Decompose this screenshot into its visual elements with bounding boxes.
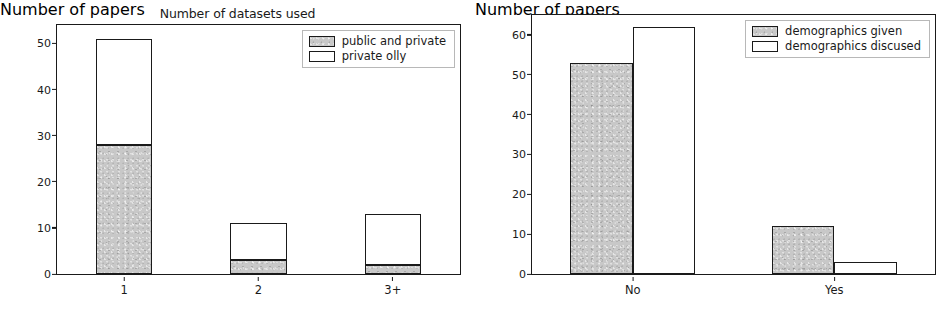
y-tick-mark	[527, 114, 531, 115]
y-axis-tick: 50	[506, 69, 526, 80]
legend-item: public and private	[309, 36, 446, 48]
legend-label: public and private	[342, 36, 446, 48]
chart-panel-right: Number of papers 0102030405060NoYes demo…	[475, 0, 950, 313]
legend-right: demographics given demographics discused	[745, 20, 930, 58]
y-axis-tick: 20	[31, 176, 51, 187]
x-axis-tick: Yes	[825, 285, 844, 297]
bar-segment	[365, 214, 421, 265]
y-tick-mark	[527, 273, 531, 274]
legend-swatch-public-and-private	[309, 36, 335, 47]
bar	[570, 63, 632, 274]
y-tick-mark	[52, 227, 56, 228]
legend-item: private olly	[309, 51, 446, 63]
x-tick-mark	[258, 277, 259, 281]
x-axis-tick: 3+	[384, 285, 401, 297]
y-axis-tick: 50	[31, 38, 51, 49]
y-axis-tick: 10	[506, 229, 526, 240]
y-tick-mark	[527, 194, 531, 195]
y-tick-mark	[52, 273, 56, 274]
y-tick-mark	[527, 74, 531, 75]
x-tick-mark	[124, 277, 125, 281]
legend-label: demographics given	[785, 26, 902, 38]
y-tick-mark	[527, 154, 531, 155]
x-tick-mark	[392, 277, 393, 281]
chart-title-left: Number of datasets used	[0, 6, 475, 21]
bar-segment	[230, 223, 286, 260]
stacked-bar	[96, 39, 152, 274]
legend-label: demographics discused	[785, 41, 921, 53]
legend-label: private olly	[342, 51, 407, 63]
y-axis-tick: 60	[506, 29, 526, 40]
x-tick-mark	[834, 277, 835, 281]
legend-item: demographics given	[752, 26, 921, 38]
legend-left: public and private private olly	[302, 30, 455, 68]
y-axis-tick: 30	[31, 130, 51, 141]
bar-segment	[96, 39, 152, 145]
chart-panel-left: Number of datasets used Number of papers…	[0, 0, 475, 313]
x-axis-tick: 1	[120, 285, 127, 297]
legend-swatch-demographics-given	[752, 26, 778, 37]
x-axis-tick: 2	[255, 285, 262, 297]
y-axis-tick: 40	[506, 109, 526, 120]
bar	[834, 262, 896, 274]
y-tick-mark	[52, 89, 56, 90]
bar	[772, 226, 834, 274]
stacked-bar	[365, 214, 421, 274]
y-axis-tick: 0	[31, 269, 51, 280]
x-tick-mark	[632, 277, 633, 281]
figure-container: Number of datasets used Number of papers…	[0, 0, 951, 313]
y-axis-tick: 30	[506, 149, 526, 160]
y-tick-mark	[527, 34, 531, 35]
bar	[633, 27, 695, 274]
legend-swatch-private-only	[309, 51, 335, 62]
bar-segment	[365, 265, 421, 274]
bar-segment	[230, 260, 286, 274]
bar-segment	[96, 145, 152, 274]
y-axis-tick: 0	[506, 269, 526, 280]
y-axis-tick: 10	[31, 222, 51, 233]
y-axis-tick: 40	[31, 84, 51, 95]
legend-swatch-demographics-discussed	[752, 41, 778, 52]
y-tick-mark	[52, 135, 56, 136]
y-axis-tick: 20	[506, 189, 526, 200]
y-tick-mark	[52, 43, 56, 44]
stacked-bar	[230, 223, 286, 274]
legend-item: demographics discused	[752, 41, 921, 53]
y-tick-mark	[527, 234, 531, 235]
y-tick-mark	[52, 181, 56, 182]
x-axis-tick: No	[625, 285, 641, 297]
